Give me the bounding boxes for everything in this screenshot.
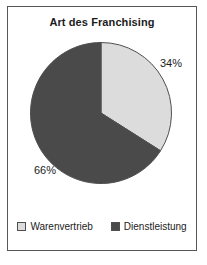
pie-value-label-warenvertrieb: 34% xyxy=(160,57,182,69)
legend-item-label: Dienstleistung xyxy=(124,221,187,232)
legend-swatch-icon xyxy=(111,222,120,231)
legend-item-label: Warenvertrieb xyxy=(30,221,92,232)
pie-value-label-dienstleistung: 66% xyxy=(34,164,56,176)
legend-item-dienstleistung[interactable]: Dienstleistung xyxy=(111,221,187,232)
pie-chart: 34% 66% xyxy=(8,7,198,252)
legend-item-warenvertrieb[interactable]: Warenvertrieb xyxy=(17,221,92,232)
chart-frame: Art des Franchising 34% 66% Warenvertrie… xyxy=(7,6,197,251)
legend-swatch-icon xyxy=(17,222,26,231)
chart-legend: Warenvertrieb Dienstleistung xyxy=(8,221,196,232)
